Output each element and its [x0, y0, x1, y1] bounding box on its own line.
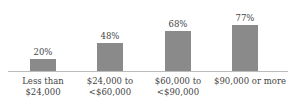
income-bar-chart: 20% Less than $24,000 48% $24,000 to <$6…: [0, 0, 295, 106]
category-label: $90,000 or more: [210, 76, 290, 87]
category-label: Less than $24,000: [8, 76, 78, 98]
value-label: 48%: [85, 31, 135, 41]
category-label-line: $90,000 or more: [210, 76, 290, 87]
value-label: 68%: [153, 19, 203, 29]
category-label-line: $24,000 to: [75, 76, 145, 87]
value-label: 77%: [220, 13, 270, 23]
category-label: $60,000 to <$90,000: [143, 76, 213, 98]
bar-less-than-24000: [30, 59, 56, 71]
bar-60000-to-90000: [165, 31, 191, 71]
category-label-line: Less than: [8, 76, 78, 87]
category-label: $24,000 to <$60,000: [75, 76, 145, 98]
category-label-line: <$60,000: [75, 87, 145, 98]
category-label-line: $24,000: [8, 87, 78, 98]
category-label-line: <$90,000: [143, 87, 213, 98]
x-axis-baseline: [8, 71, 288, 72]
bar-90000-or-more: [232, 25, 258, 71]
bar-24000-to-60000: [97, 43, 123, 71]
category-label-line: $60,000 to: [143, 76, 213, 87]
value-label: 20%: [18, 47, 68, 57]
